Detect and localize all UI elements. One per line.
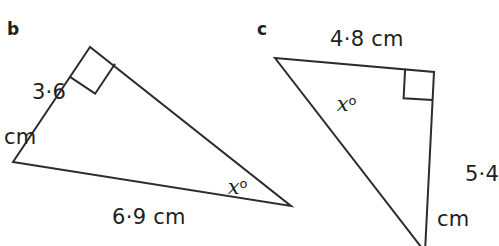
side-label-6-9-cm: 6·9 cm xyxy=(112,206,186,229)
angle-variable-b: x xyxy=(228,175,240,199)
degree-symbol-c: o xyxy=(349,93,357,108)
degree-symbol-b: o xyxy=(240,176,248,191)
angle-label-x-b: xo xyxy=(201,153,248,221)
right-angle-marker-c xyxy=(404,69,433,100)
part-letter-c: c xyxy=(257,20,267,38)
side-label-3-6-unit: cm xyxy=(4,126,66,149)
angle-variable-c: x xyxy=(337,92,349,116)
side-label-4-8-cm: 4·8 cm xyxy=(330,28,404,51)
angle-label-x-c: xo xyxy=(310,70,357,138)
side-label-3-6-value: 3·6 xyxy=(32,80,66,104)
part-letter-b: b xyxy=(7,20,19,38)
side-label-5-4-cm: 5·4 cm xyxy=(437,140,499,246)
side-label-5-4-unit: cm xyxy=(437,208,499,231)
side-label-3-6-cm: 3·6 cm xyxy=(4,58,66,194)
side-label-5-4-value: 5·4 xyxy=(465,162,499,186)
